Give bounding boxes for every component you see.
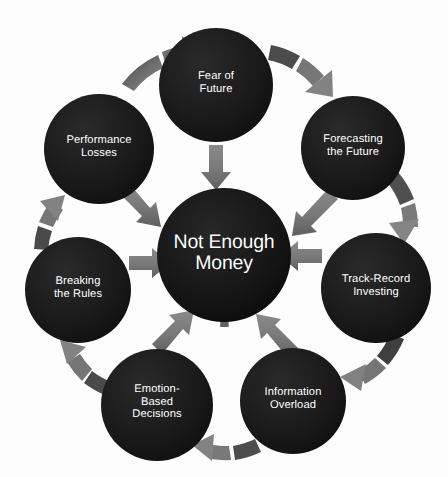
- node-information-overload[interactable]: [240, 348, 346, 454]
- node-performance-losses[interactable]: [44, 94, 154, 204]
- curve-fear-to-forecasting: [268, 45, 333, 97]
- curve-information-to-emotion: [192, 434, 261, 461]
- node-emotion-based-decisions[interactable]: [101, 349, 213, 461]
- diagram-canvas: $ $ Not Enough Money Fear of Future Fore…: [0, 0, 448, 477]
- arrow-forecasting-to-center: [292, 189, 338, 236]
- node-track-record-investing[interactable]: [321, 233, 431, 343]
- node-forecasting-the-future[interactable]: [301, 96, 405, 200]
- node-fear-of-future[interactable]: [159, 28, 273, 142]
- center-node[interactable]: [157, 188, 291, 322]
- curve-forecasting-to-track-record: [387, 172, 419, 244]
- node-breaking-the-rules[interactable]: [25, 237, 131, 343]
